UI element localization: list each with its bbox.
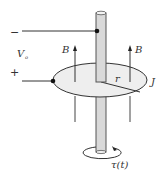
contact-rim: [51, 79, 56, 84]
upper-shaft: [96, 11, 106, 82]
homopolar-diagram: − + V o B B r J τ(t): [0, 0, 166, 183]
plus-terminal-label: +: [10, 66, 19, 79]
torque-label: τ(t): [111, 159, 128, 170]
field-label-left: B: [61, 44, 69, 55]
voltage-subscript: o: [25, 54, 28, 60]
field-label-right: B: [134, 44, 142, 55]
contact-shaft: [95, 29, 100, 34]
current-density-label: J: [149, 76, 156, 87]
minus-terminal-label: −: [10, 26, 19, 39]
lower-shaft: [96, 88, 106, 154]
